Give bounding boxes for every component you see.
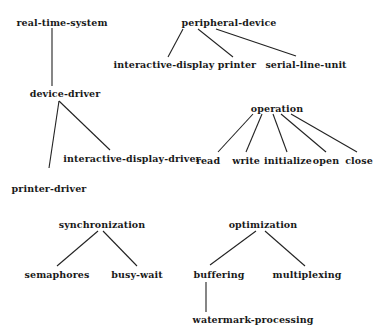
edge-operation-to-read — [218, 114, 253, 152]
edge-synchronization-to-busy-wait — [103, 231, 137, 266]
node-optimization: optimization — [229, 219, 298, 230]
node-operation: operation — [251, 103, 303, 114]
node-interactive-display: interactive-display — [114, 59, 215, 70]
tree-edges — [0, 0, 388, 333]
node-synchronization: synchronization — [59, 219, 146, 230]
edge-operation-to-close — [291, 114, 357, 152]
node-peripheral-device: peripheral-device — [182, 17, 277, 28]
node-close: close — [345, 155, 373, 166]
node-write: write — [232, 155, 260, 166]
node-semaphores: semaphores — [25, 269, 90, 280]
node-watermark-processing: watermark-processing — [193, 314, 314, 325]
edge-operation-to-open — [281, 114, 326, 152]
edge-optimization-to-multiplexing — [265, 231, 305, 266]
node-interactive-display-driver: interactive-display-driver — [63, 153, 200, 164]
node-buffering: buffering — [194, 269, 245, 280]
node-printer: printer — [218, 59, 256, 70]
edge-device-driver-to-printer-driver — [49, 101, 59, 168]
edge-synchronization-to-semaphores — [57, 231, 98, 266]
node-real-time-system: real-time-system — [16, 17, 107, 28]
node-initialize: initialize — [264, 155, 312, 166]
node-serial-line-unit: serial-line-unit — [265, 59, 346, 70]
node-open: open — [313, 155, 339, 166]
node-read: read — [196, 155, 220, 166]
edge-optimization-to-buffering — [210, 231, 256, 265]
edge-device-driver-to-interactive-display-driver — [59, 101, 110, 150]
node-printer-driver: printer-driver — [12, 183, 87, 194]
node-busy-wait: busy-wait — [111, 269, 163, 280]
edge-peripheral-device-to-serial-line-unit — [216, 29, 296, 56]
node-multiplexing: multiplexing — [273, 269, 342, 280]
edge-peripheral-device-to-interactive-display — [168, 29, 183, 57]
edge-operation-to-initialize — [273, 114, 287, 152]
node-device-driver: device-driver — [30, 88, 101, 99]
